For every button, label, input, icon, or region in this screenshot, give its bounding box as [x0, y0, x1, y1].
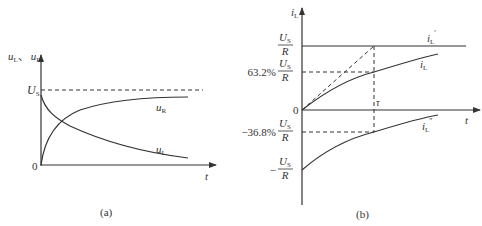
- svg-text:US: US: [279, 155, 291, 169]
- svg-text:R: R: [281, 71, 289, 83]
- a-uL-curve: [41, 95, 188, 158]
- b-tick-neg-us-r: − US R: [270, 155, 293, 181]
- b-origin-label: 0: [293, 104, 299, 116]
- b-tau-label: τ: [376, 97, 380, 108]
- svg-text:US: US: [279, 31, 291, 45]
- b-tick-632: 63.2% US R: [248, 57, 293, 83]
- a-caption: (a): [100, 206, 113, 219]
- b-iL-prime-label: iL′: [427, 29, 436, 46]
- b-tangent-dashed-line: [302, 46, 374, 110]
- b-iL-double-label: iL″: [422, 117, 433, 134]
- figure-b: iL US R 63.2% US R −36.8% US R − US R 0: [241, 6, 480, 221]
- a-us-label: US: [27, 83, 40, 98]
- b-tick-368: −36.8% US R: [241, 117, 293, 143]
- svg-text:63.2%: 63.2%: [248, 66, 276, 78]
- b-tick-us-r: US R: [278, 31, 293, 57]
- a-x-axis-label: t: [205, 170, 209, 182]
- svg-text:R: R: [281, 131, 289, 143]
- b-caption: (b): [356, 208, 369, 221]
- svg-text:US: US: [279, 117, 291, 131]
- b-iL-double-curve: [302, 115, 438, 170]
- svg-text:−36.8%: −36.8%: [241, 126, 276, 138]
- a-y-axis-label: uL、uR: [8, 50, 41, 64]
- svg-text:R: R: [281, 169, 289, 181]
- b-y-axis-label: iL: [291, 6, 298, 20]
- a-origin-label: 0: [32, 160, 38, 172]
- b-iL-label: iL: [420, 58, 427, 72]
- a-uR-label: uR: [156, 101, 167, 115]
- b-x-axis-label: t: [465, 114, 469, 126]
- svg-text:R: R: [281, 45, 289, 57]
- figure-canvas: uL、uR US 0 t uR uL (a) iL US R 63.2% US: [0, 0, 482, 226]
- a-uL-label: uL: [156, 143, 166, 157]
- figure-a: uL、uR US 0 t uR uL (a): [8, 50, 216, 219]
- svg-text:−: −: [270, 164, 276, 176]
- svg-text:US: US: [279, 57, 291, 71]
- b-iL-curve: [302, 54, 438, 110]
